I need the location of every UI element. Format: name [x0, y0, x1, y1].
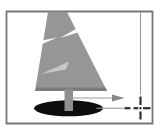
tree-canopy: [35, 12, 107, 91]
tree-snap-diagram: [0, 0, 163, 132]
crosshair-target-icon: [125, 97, 151, 120]
right-arrow-icon: [112, 94, 125, 101]
tree-trunk: [65, 89, 74, 111]
illustration-canvas: [0, 0, 163, 132]
